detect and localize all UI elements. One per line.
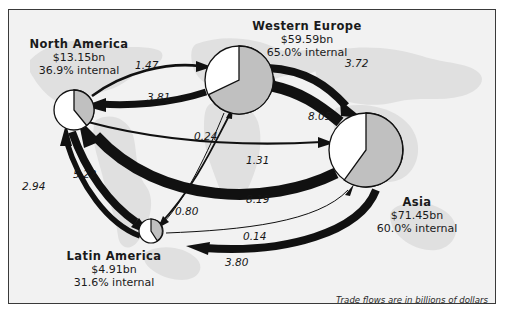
flow-label-as-la: 3.80 — [225, 256, 248, 268]
region-internal-north-america: 36.9% internal — [14, 65, 144, 78]
region-name-latin-america: Latin America — [44, 250, 184, 264]
flow-western-europe-to-north-america — [84, 92, 206, 112]
region-internal-asia: 60.0% internal — [352, 223, 482, 236]
region-value-latin-america: $4.91bn — [44, 264, 184, 277]
flow-label-as-we: 8.05 — [308, 110, 331, 122]
trade-flow-figure: North America $13.15bn 36.9% internal We… — [0, 0, 506, 319]
flow-label-na-as: 1.31 — [246, 154, 269, 166]
label-latin-america: Latin America $4.91bn 31.6% internal — [44, 250, 184, 290]
region-name-asia: Asia — [352, 196, 482, 210]
figure-caption: Trade flows are in billions of dollars — [336, 295, 488, 305]
flow-label-we-na: 3.81 — [147, 91, 170, 103]
region-name-north-america: North America — [14, 38, 144, 52]
region-name-western-europe: Western Europe — [237, 20, 377, 34]
flow-label-la-na: 2.94 — [22, 180, 45, 192]
flow-label-we-as: 3.72 — [345, 57, 368, 69]
flow-label-as-na: 8.19 — [246, 193, 269, 205]
region-value-western-europe: $59.59bn — [237, 34, 377, 47]
region-value-asia: $71.45bn — [352, 210, 482, 223]
region-internal-latin-america: 31.6% internal — [44, 277, 184, 290]
label-western-europe: Western Europe $59.59bn 65.0% internal — [237, 20, 377, 60]
pie-latin-america — [139, 219, 163, 243]
region-value-north-america: $13.15bn — [14, 52, 144, 65]
flow-label-we-la: 0.24 — [194, 130, 217, 142]
flow-asia-to-latin-america — [186, 190, 376, 255]
pie-north-america — [54, 90, 94, 130]
pie-asia — [329, 113, 403, 187]
flow-label-na-la: 5.22 — [73, 168, 96, 180]
label-north-america: North America $13.15bn 36.9% internal — [14, 38, 144, 78]
label-asia: Asia $71.45bn 60.0% internal — [352, 196, 482, 236]
flow-label-la-we: 0.80 — [175, 205, 198, 217]
flow-label-la-as: 0.14 — [243, 230, 266, 242]
flow-label-na-we: 1.47 — [135, 59, 158, 71]
